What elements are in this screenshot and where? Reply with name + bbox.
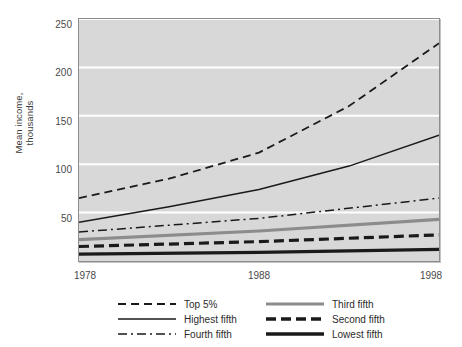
legend-label-third-fifth: Third fifth (332, 299, 374, 310)
legend-label-fourth-fifth: Fourth fifth (184, 329, 232, 340)
legend-item-second-fifth: Second fifth (266, 313, 385, 325)
series-line-fourth-fifth (79, 198, 439, 232)
legend-item-third-fifth: Third fifth (266, 298, 374, 310)
legend-label-second-fifth: Second fifth (332, 314, 385, 325)
legend-key-dash-dot (118, 328, 176, 340)
x-tick-1988: 1988 (248, 270, 270, 281)
chart-figure: Mean income, thousands 250 200 150 100 5… (0, 0, 462, 347)
plot-area (78, 18, 440, 262)
legend-key-thick-solid (266, 328, 324, 340)
series-line-highest-fifth (79, 135, 439, 222)
y-axis-tick-labels: 250 200 150 100 50 (36, 0, 72, 347)
legend-label-lowest-fifth: Lowest fifth (332, 329, 383, 340)
legend-item-highest-fifth: Highest fifth (118, 313, 237, 325)
legend-key-thick-dashed (266, 313, 324, 325)
legend-label-highest-fifth: Highest fifth (184, 314, 237, 325)
legend-item-lowest-fifth: Lowest fifth (266, 328, 383, 340)
series-line-lowest-fifth (79, 249, 439, 254)
legend-item-fourth-fifth: Fourth fifth (118, 328, 232, 340)
x-tick-1998: 1998 (420, 270, 442, 281)
gridlines (79, 19, 439, 213)
legend-key-dashed (118, 298, 176, 310)
legend-key-solid-thin (118, 313, 176, 325)
legend-item-top-5: Top 5% (118, 298, 217, 310)
legend-key-solid-gray (266, 298, 324, 310)
chart-legend: Top 5% Highest fifth Fourth fifth Third … (118, 298, 398, 342)
x-tick-1978: 1978 (74, 270, 96, 281)
legend-label-top-5: Top 5% (184, 299, 217, 310)
y-axis-label: Mean income, thousands (13, 53, 35, 193)
y-tick-50: 50 (38, 213, 72, 224)
y-tick-200: 200 (38, 67, 72, 78)
plot-svg (79, 19, 439, 261)
y-tick-250: 250 (38, 19, 72, 30)
y-tick-150: 150 (38, 116, 72, 127)
y-tick-100: 100 (38, 164, 72, 175)
